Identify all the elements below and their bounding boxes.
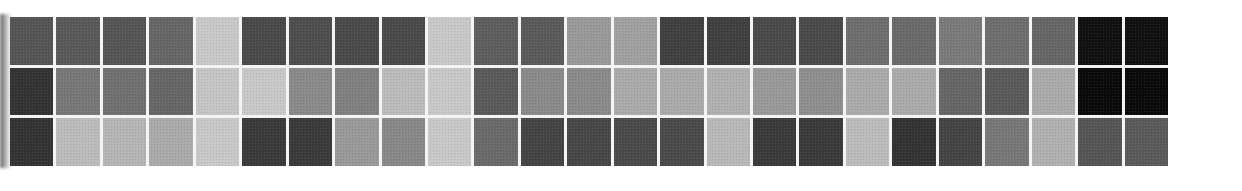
heatmap-cell: [103, 68, 146, 116]
heatmap-cell: [753, 118, 796, 166]
heatmap-cell: [567, 118, 610, 166]
heatmap-cell: [753, 68, 796, 116]
heatmap-cell: [939, 118, 982, 166]
heatmap-cell: [892, 17, 935, 65]
heatmap-cell: [382, 118, 425, 166]
heatmap-cell: [660, 68, 703, 116]
heatmap-cell: [1078, 68, 1121, 116]
heatmap-cell: [1032, 118, 1075, 166]
heatmap-cell: [567, 68, 610, 116]
heatmap-cell: [56, 68, 99, 116]
heatmap-cell: [10, 68, 53, 116]
heatmap-cell: [10, 118, 53, 166]
heatmap-cell: [985, 68, 1028, 116]
heatmap-cell: [289, 68, 332, 116]
heatmap-cell: [846, 68, 889, 116]
heatmap-cell: [1032, 68, 1075, 116]
heatmap-cell: [892, 68, 935, 116]
heatmap-cell: [846, 118, 889, 166]
heatmap-cell: [521, 17, 564, 65]
heatmap-cell: [521, 118, 564, 166]
heatmap-cell: [1125, 17, 1168, 65]
heatmap-cell: [614, 17, 657, 65]
heatmap-cell: [1125, 118, 1168, 166]
heatmap-cell: [1125, 68, 1168, 116]
heatmap-cell: [428, 118, 471, 166]
heatmap-cell: [567, 17, 610, 65]
heatmap-cell: [149, 68, 192, 116]
heatmap-cell: [474, 68, 517, 116]
heatmap-cell: [1078, 118, 1121, 166]
heatmap-cell: [242, 68, 285, 116]
heatmap-cell: [521, 68, 564, 116]
heatmap-cell: [103, 17, 146, 65]
heatmap-cell: [939, 17, 982, 65]
heatmap-cell: [428, 17, 471, 65]
heatmap-cell: [614, 118, 657, 166]
heatmap-cell: [1078, 17, 1121, 65]
heatmap-cell: [799, 17, 842, 65]
heatmap-cell: [149, 118, 192, 166]
heatmap-cell: [474, 118, 517, 166]
heatmap-cell: [799, 118, 842, 166]
heatmap-cell: [382, 68, 425, 116]
heatmap-cell: [985, 118, 1028, 166]
heatmap-cell: [289, 17, 332, 65]
heatmap-cell: [660, 17, 703, 65]
heatmap-cell: [660, 118, 703, 166]
heatmap-cell: [985, 17, 1028, 65]
heatmap-cell: [56, 118, 99, 166]
heatmap-cell: [196, 118, 239, 166]
heatmap-cell: [56, 17, 99, 65]
heatmap-cell: [242, 17, 285, 65]
heatmap-cell: [707, 118, 750, 166]
heatmap-cell: [707, 68, 750, 116]
heatmap-cell: [474, 17, 517, 65]
heatmap-cell: [846, 17, 889, 65]
heatmap-cell: [10, 17, 53, 65]
heatmap-cell: [1032, 17, 1075, 65]
heatmap-cell: [335, 68, 378, 116]
heatmap-grid: [10, 17, 1168, 166]
heatmap-cell: [335, 17, 378, 65]
heatmap-cell: [103, 118, 146, 166]
heatmap-cell: [707, 17, 750, 65]
heatmap-cell: [289, 118, 332, 166]
heatmap-cell: [939, 68, 982, 116]
heatmap-cell: [892, 118, 935, 166]
heatmap-cell: [196, 17, 239, 65]
heatmap-cell: [242, 118, 285, 166]
heatmap-cell: [428, 68, 471, 116]
heatmap-cell: [799, 68, 842, 116]
heatmap-cell: [382, 17, 425, 65]
heatmap-cell: [149, 17, 192, 65]
heatmap-cell: [335, 118, 378, 166]
heatmap-cell: [614, 68, 657, 116]
heatmap-cell: [196, 68, 239, 116]
heatmap-cell: [753, 17, 796, 65]
